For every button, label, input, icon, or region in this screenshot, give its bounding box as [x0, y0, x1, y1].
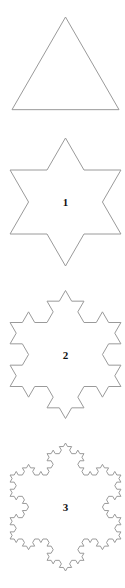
iteration-label-3: 3 [63, 501, 69, 513]
iteration-label-1: 1 [63, 196, 69, 208]
koch-snowflake-figure: 1 2 3 [0, 0, 125, 588]
shape-iteration-1: 1 [10, 138, 121, 266]
shape-iteration-3: 3 [10, 443, 121, 571]
shape-iteration-0 [12, 17, 119, 110]
shape-iteration-2: 2 [10, 291, 121, 419]
triangle-outline [12, 17, 119, 110]
iteration-label-2: 2 [63, 349, 69, 361]
